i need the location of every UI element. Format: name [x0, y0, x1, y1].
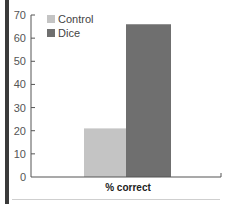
y-tick-label: 50: [14, 55, 26, 67]
x-axis-label: % correct: [105, 182, 151, 193]
y-tick-label: 20: [14, 125, 26, 137]
y-tick-label: 40: [14, 78, 26, 90]
legend-swatch-control: [47, 15, 55, 23]
y-axis: 010203040506070: [14, 9, 35, 183]
y-tick-label: 70: [14, 9, 26, 21]
bars: [84, 24, 171, 177]
bar-control: [84, 128, 126, 177]
legend-swatch-dice: [47, 29, 55, 37]
y-tick-label: 10: [14, 148, 26, 160]
legend-label-dice: Dice: [58, 27, 80, 39]
y-tick-label: 60: [14, 32, 26, 44]
legend: ControlDice: [47, 13, 93, 39]
bar-chart: 010203040506070 % correct ControlDice: [0, 0, 227, 204]
y-tick-label: 0: [20, 171, 26, 183]
legend-label-control: Control: [58, 13, 93, 25]
bar-dice: [126, 24, 171, 177]
bottom-divider: [12, 199, 220, 200]
y-tick-label: 30: [14, 102, 26, 114]
